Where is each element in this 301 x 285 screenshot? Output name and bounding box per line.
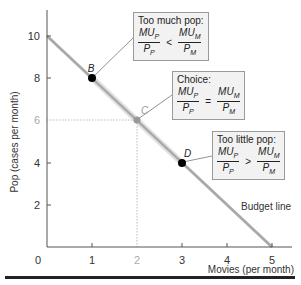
fraction-movies: MUM PM: [217, 86, 240, 117]
mu-ratio-equality: MUP PP = MUM PM: [177, 86, 240, 117]
budget-line-label: Budget line: [241, 201, 291, 212]
y-tick-label-8: 8: [34, 72, 40, 84]
y-tick-label-2: 2: [34, 199, 40, 211]
annotation-choice: Choice: MUP PP = MUM PM: [172, 71, 245, 120]
mu-ratio-inequality: MUP PP < MUM PM: [138, 27, 204, 58]
y-tick-label-4: 4: [34, 157, 40, 169]
fraction-pop: MUP PP: [217, 146, 239, 177]
annotation-title: Choice:: [177, 74, 240, 85]
point-label-b: B: [88, 63, 95, 74]
x-axis-title: Movies (per month): [208, 264, 294, 275]
comparison-operator: <: [166, 37, 172, 48]
point-label-d: D: [184, 148, 191, 159]
x-tick-label-1: 1: [89, 254, 95, 266]
y-axis-title: Pop (cases per month): [9, 91, 20, 192]
point-c: [134, 117, 141, 124]
annotation-title: Too little pop:: [217, 134, 280, 145]
fraction-movies: MUM PM: [257, 146, 280, 177]
fraction-pop: MUP PP: [138, 27, 160, 58]
comparison-operator: >: [245, 156, 251, 167]
x-tick-label-2: 2: [134, 254, 140, 266]
annotation-too-much-pop: Too much pop: MUP PP < MUM PM: [133, 12, 209, 61]
origin-label: 0: [35, 254, 41, 266]
point-label-c: C: [141, 105, 149, 116]
fraction-movies: MUM PM: [178, 27, 201, 58]
point-b: [88, 74, 96, 82]
point-d: [178, 159, 186, 167]
bottom-rule: [5, 276, 295, 279]
mu-ratio-inequality: MUP PP > MUM PM: [217, 146, 280, 177]
x-tick-label-3: 3: [179, 254, 185, 266]
fraction-pop: MUP PP: [177, 86, 199, 117]
annotation-title: Too much pop:: [138, 15, 204, 26]
leader-b: [93, 38, 133, 77]
y-tick-label-10: 10: [28, 30, 40, 42]
y-tick-label-6: 6: [34, 114, 40, 126]
annotation-too-little-pop: Too little pop: MUP PP > MUM PM: [212, 131, 285, 180]
comparison-operator: =: [205, 96, 211, 107]
